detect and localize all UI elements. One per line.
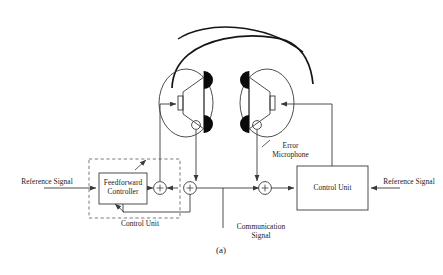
wire-sum1-to-left-speaker	[160, 104, 176, 181]
diagram-canvas	[0, 0, 443, 275]
label-control-unit-block: Control Unit	[297, 183, 368, 192]
label-reference-signal-right: Reference Signal	[376, 177, 442, 186]
leader-line-top	[135, 160, 146, 170]
left-earpad-bottom-icon	[204, 115, 213, 133]
left-earpad-top-icon	[204, 71, 213, 89]
figure-anc-headphone-diagram: Reference Signal Feedforward Controller …	[0, 0, 443, 275]
figure-caption: (a)	[198, 246, 244, 255]
label-control-unit-dashed: Control Unit	[104, 219, 176, 228]
label-error-microphone: Error Microphone	[259, 141, 322, 159]
right-earpad-bottom-icon	[240, 115, 249, 133]
label-communication-signal: Communication Signal	[224, 222, 298, 240]
right-earpad-top-icon	[240, 71, 249, 89]
label-reference-signal-left: Reference Signal	[8, 177, 86, 186]
label-feedforward-controller: Feedforward Controller	[99, 178, 147, 196]
